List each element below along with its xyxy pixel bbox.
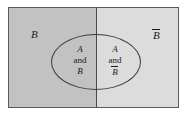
region-label-a-and-b-complement-line3: B: [101, 66, 129, 78]
set-label-b-text: B: [31, 28, 38, 40]
region-label-a-and-b-line2: and: [66, 55, 94, 66]
region-label-a-and-b-line1: A: [66, 44, 94, 55]
set-label-b: B: [31, 29, 38, 40]
universal-set-rectangle: B B A and B A and B: [8, 7, 179, 108]
region-label-a-and-b-complement-line1: A: [101, 44, 129, 55]
set-label-b-complement: B: [153, 29, 160, 41]
region-label-a-and-b-complement-line2: and: [101, 55, 129, 66]
region-label-a-and-b-line3: B: [66, 66, 94, 77]
region-label-a-and-b: A and B: [66, 44, 94, 77]
venn-diagram: B B A and B A and B: [0, 0, 187, 118]
set-label-b-complement-text: B: [153, 29, 160, 41]
region-label-a-and-b-complement: A and B: [101, 44, 129, 78]
